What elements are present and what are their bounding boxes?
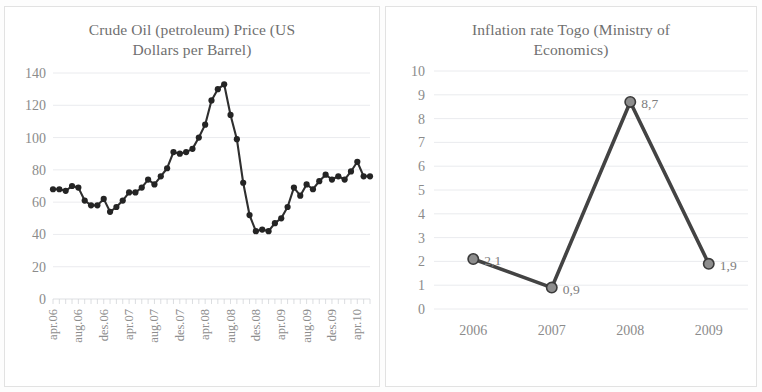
data-point-marker: [126, 189, 132, 195]
data-point-marker: [221, 81, 227, 87]
inflation-plot-area: 012345678910 2,10,98,71,9 20062007200820…: [386, 61, 756, 371]
y-tick-label: 0: [39, 292, 46, 307]
x-tick-label: apr.07: [122, 309, 136, 340]
crude-oil-x-axis-ticks: [53, 299, 370, 304]
data-point-marker: [348, 168, 354, 174]
y-tick-label: 40: [32, 227, 46, 242]
data-point-marker: [335, 173, 341, 179]
data-point-marker: [468, 254, 478, 264]
data-point-marker: [151, 181, 157, 187]
inflation-chart-title: Inflation rate Togo (Ministry of Economi…: [386, 7, 756, 61]
data-point-marker: [113, 204, 119, 210]
data-point-marker: [234, 136, 240, 142]
data-point-marker: [284, 204, 290, 210]
inflation-y-axis-labels: 012345678910: [411, 64, 425, 317]
y-tick-label: 4: [418, 207, 425, 222]
x-tick-label: 2007: [538, 323, 566, 338]
inflation-x-axis-labels: 2006200720082009: [459, 323, 723, 338]
data-point-marker: [164, 165, 170, 171]
data-point-marker: [367, 173, 373, 179]
y-tick-label: 10: [411, 64, 425, 79]
x-tick-label: 2006: [459, 323, 487, 338]
data-point-label: 2,1: [484, 253, 501, 268]
chart-panel-inflation-togo: Inflation rate Togo (Ministry of Economi…: [385, 6, 757, 387]
data-point-marker: [291, 184, 297, 190]
crude-oil-chart-title: Crude Oil (petroleum) Price (US Dollars …: [5, 7, 379, 61]
data-point-marker: [265, 228, 271, 234]
data-point-marker: [329, 176, 335, 182]
x-tick-label: aug.06: [71, 309, 85, 343]
data-point-marker: [202, 121, 208, 127]
data-point-marker: [94, 202, 100, 208]
y-tick-label: 8: [418, 112, 425, 127]
data-point-marker: [227, 112, 233, 118]
data-point-marker: [304, 181, 310, 187]
crude-oil-svg: 020406080100120140 apr.06aug.06des.06apr…: [5, 61, 379, 371]
data-point-marker: [625, 97, 635, 107]
y-tick-label: 20: [32, 260, 46, 275]
data-point-marker: [316, 178, 322, 184]
data-point-marker: [278, 215, 284, 221]
x-tick-label: apr.08: [198, 309, 212, 340]
y-tick-label: 100: [25, 130, 46, 145]
x-tick-label: 2008: [616, 323, 644, 338]
y-tick-label: 1: [418, 278, 425, 293]
data-point-marker: [547, 282, 557, 292]
figure-container: Crude Oil (petroleum) Price (US Dollars …: [0, 0, 762, 392]
data-point-marker: [88, 202, 94, 208]
data-point-marker: [361, 173, 367, 179]
data-point-marker: [177, 151, 183, 157]
data-point-label: 0,9: [563, 281, 580, 296]
data-point-marker: [101, 196, 107, 202]
data-point-marker: [259, 226, 265, 232]
data-point-marker: [145, 176, 151, 182]
inflation-title-line2: Economics): [533, 41, 608, 58]
x-tick-label: des.06: [97, 309, 111, 341]
data-point-marker: [82, 197, 88, 203]
data-point-marker: [342, 176, 348, 182]
x-tick-label: des.07: [173, 309, 187, 341]
data-point-marker: [170, 149, 176, 155]
data-point-marker: [240, 180, 246, 186]
crude-oil-title-line1: Crude Oil (petroleum) Price (US: [89, 21, 295, 38]
data-point-marker: [215, 86, 221, 92]
x-tick-label: aug.08: [224, 309, 238, 343]
data-point-marker: [132, 189, 138, 195]
y-tick-label: 7: [418, 135, 425, 150]
data-point-marker: [50, 186, 56, 192]
y-tick-label: 6: [418, 159, 425, 174]
y-tick-label: 60: [32, 195, 46, 210]
inflation-svg: 012345678910 2,10,98,71,9 20062007200820…: [386, 61, 756, 371]
data-point-marker: [310, 186, 316, 192]
data-point-marker: [354, 159, 360, 165]
data-point-marker: [272, 220, 278, 226]
data-point-marker: [189, 146, 195, 152]
x-tick-label: apr.09: [274, 309, 288, 340]
data-point-marker: [246, 212, 252, 218]
y-tick-label: 3: [418, 231, 425, 246]
data-point-marker: [183, 149, 189, 155]
x-tick-label: apr.10: [350, 309, 364, 340]
crude-oil-title-line2: Dollars per Barrel): [133, 41, 252, 58]
data-point-marker: [208, 97, 214, 103]
inflation-data-labels: 2,10,98,71,9: [484, 96, 737, 297]
data-point-marker: [69, 183, 75, 189]
x-tick-label: des.08: [249, 309, 263, 341]
x-tick-label: apr.06: [46, 309, 60, 340]
data-point-label: 8,7: [641, 96, 658, 111]
data-point-marker: [196, 134, 202, 140]
y-tick-label: 2: [418, 254, 425, 269]
x-tick-label: aug.09: [300, 309, 314, 343]
data-point-marker: [107, 209, 113, 215]
data-point-marker: [120, 197, 126, 203]
data-point-label: 1,9: [720, 258, 737, 273]
data-point-marker: [297, 192, 303, 198]
crude-oil-series-line: [53, 84, 370, 231]
y-tick-label: 9: [418, 88, 425, 103]
y-tick-label: 120: [25, 98, 46, 113]
y-tick-label: 80: [32, 163, 46, 178]
data-point-marker: [323, 172, 329, 178]
data-point-marker: [56, 186, 62, 192]
x-tick-label: aug.07: [147, 309, 161, 343]
data-point-marker: [139, 184, 145, 190]
